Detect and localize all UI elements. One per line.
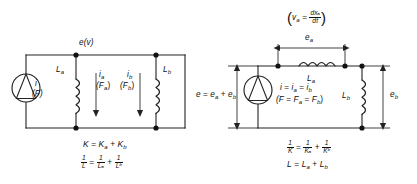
frac-one-over-kb: 1Kᵇ bbox=[322, 140, 331, 155]
right-Lb-label: Lb bbox=[342, 92, 350, 100]
frac-one-over-l: 1L bbox=[81, 155, 87, 170]
right-equation-inverse-k-sum: 1K = 1Kₐ + 1Kᵇ bbox=[287, 140, 331, 155]
left-ib-arrow-head-icon bbox=[137, 110, 143, 117]
frac-one-over-lb: 1Lᵇ bbox=[115, 155, 123, 170]
right-eb-arrow-down-icon bbox=[380, 123, 386, 130]
frac-dxa-dt: dxₐdt bbox=[309, 10, 321, 25]
left-source-force-label: (F) bbox=[32, 90, 43, 98]
right-ea-arrow-right-icon bbox=[343, 45, 350, 51]
left-ia-arrow-head-icon bbox=[93, 110, 99, 117]
right-e-total-arrow-up-icon bbox=[234, 64, 240, 71]
right-top-formula: (va = dxₐdt) bbox=[287, 10, 326, 25]
right-source-current-equation: i = ia = ib bbox=[280, 84, 312, 92]
left-node-bottom-b bbox=[153, 125, 158, 130]
left-Lb-label: Lb bbox=[163, 66, 171, 74]
right-e-total-label: e = ea + eb bbox=[196, 91, 236, 99]
left-La-label: La bbox=[56, 66, 64, 74]
left-Fb-label: (Fb) bbox=[120, 82, 134, 90]
left-La-coil-icon bbox=[76, 79, 80, 113]
right-eb-arrow-up-icon bbox=[380, 64, 386, 71]
right-Lb-coil-icon bbox=[362, 80, 366, 114]
left-source-current-label: i bbox=[35, 80, 37, 88]
right-e-total-arrow-down-icon bbox=[234, 123, 240, 130]
circuit-diagram: e(v) i (F) La ia (Fa) Lb ib (Fb) K = Ka … bbox=[0, 0, 417, 184]
left-ib-label: ib bbox=[127, 71, 132, 79]
right-ea-dimension-label: ea bbox=[305, 34, 313, 42]
frac-one-over-ka: 1Kₐ bbox=[303, 140, 312, 155]
left-top-node-label: e(v) bbox=[79, 39, 94, 47]
left-Lb-coil-icon bbox=[156, 79, 160, 113]
left-equation-inverse-l-sum: 1L = 1Lₐ + 1Lᵇ bbox=[81, 155, 123, 170]
right-La-label: La bbox=[307, 75, 315, 83]
frac-one-over-la: 1Lₐ bbox=[97, 155, 105, 170]
left-Fa-label: (Fa) bbox=[96, 82, 110, 90]
right-node-a-left bbox=[275, 63, 280, 68]
right-source-force-equation: (F = Fa = Fb) bbox=[276, 96, 323, 104]
left-equation-k-sum: K = Ka + Kb bbox=[83, 140, 127, 148]
left-node-top-b bbox=[153, 52, 158, 57]
right-ea-arrow-left-icon bbox=[274, 45, 281, 51]
left-node-top-a bbox=[73, 52, 78, 57]
right-eb-dimension-label: eb bbox=[390, 91, 398, 99]
frac-one-over-k: 1K bbox=[287, 140, 294, 155]
right-node-a-right bbox=[342, 63, 347, 68]
left-ia-label: ia bbox=[99, 71, 104, 79]
right-equation-l-sum: L = La + Lb bbox=[287, 160, 328, 168]
left-node-bottom-a bbox=[73, 125, 78, 130]
